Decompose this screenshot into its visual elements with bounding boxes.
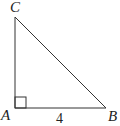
side-label-ab: 4 <box>56 111 63 126</box>
vertex-label-a: A <box>0 107 11 123</box>
right-angle-marker <box>15 97 26 108</box>
side-bc <box>15 17 106 108</box>
vertex-label-b: B <box>108 108 117 124</box>
vertex-label-c: C <box>10 0 21 15</box>
triangle-diagram: C A B 4 <box>0 0 120 126</box>
